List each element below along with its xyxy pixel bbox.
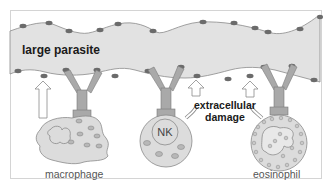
damage-label-line2: damage <box>194 111 256 123</box>
damage-label-line1: extracellular <box>194 99 256 111</box>
immune-response-diagram: NK <box>0 0 331 189</box>
eosinophil-label: eosinophil <box>253 168 300 180</box>
extracellular-damage-label: extracellular damage <box>194 99 256 123</box>
parasite-label: large parasite <box>22 43 100 57</box>
macrophage-label: macrophage <box>45 168 103 180</box>
macrophage-cell <box>36 116 108 164</box>
nk-cell: NK <box>140 115 192 167</box>
eosinophil-cell <box>251 115 307 171</box>
nk-label: NK <box>157 126 173 138</box>
